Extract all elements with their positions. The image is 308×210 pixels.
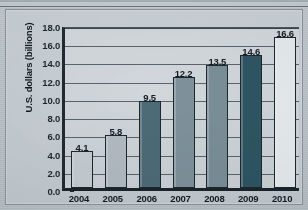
y-axis-tick-label: 4.0 (47, 149, 60, 160)
bar (240, 55, 262, 188)
bar (173, 77, 195, 188)
bar (206, 65, 228, 188)
bar (274, 37, 296, 188)
bar-value-label: 9.5 (143, 92, 156, 103)
x-axis-tick-label: 2004 (69, 193, 89, 204)
x-axis-tick-label: 2005 (103, 193, 123, 204)
x-axis-labels: 2004200520062007200820092010 (62, 193, 299, 209)
bar-value-label: 5.8 (109, 126, 122, 137)
bar (105, 135, 127, 188)
y-axis-ticks: 0.02.04.06.08.010.012.014.016.018.0 (16, 27, 60, 191)
y-axis-tick-label: 16.0 (42, 40, 60, 51)
bars: 4.15.89.512.213.514.616.6 (65, 28, 299, 188)
x-axis-tick-label: 2006 (136, 193, 156, 204)
bar (71, 151, 93, 188)
y-axis-tick-label: 6.0 (47, 131, 60, 142)
y-axis-tick-label: 10.0 (42, 94, 60, 105)
bar-value-label: 14.6 (242, 46, 260, 57)
x-axis-tick-label: 2007 (170, 193, 190, 204)
bar-value-label: 4.1 (76, 142, 89, 153)
y-axis-tick-label: 14.0 (42, 58, 60, 69)
bar-value-label: 12.2 (175, 68, 193, 79)
page-top-rule (0, 0, 308, 7)
y-axis-tick-label: 18.0 (42, 22, 60, 33)
y-axis-tick-label: 2.0 (47, 167, 60, 178)
y-axis-tick-label: 0.0 (47, 186, 60, 197)
y-axis-tick-label: 12.0 (42, 76, 60, 87)
plot-area: 4.15.89.512.213.514.616.6 (62, 27, 299, 191)
x-axis-tick-label: 2008 (204, 193, 224, 204)
chart-frame: U.S. dollars (billions) 0.02.04.06.08.01… (5, 9, 303, 205)
chart-screenshot: U.S. dollars (billions) 0.02.04.06.08.01… (0, 0, 308, 210)
bar-value-label: 16.6 (276, 28, 294, 39)
bar-value-label: 13.5 (208, 56, 226, 67)
y-axis-tick-mark (70, 191, 74, 192)
y-axis-tick-label: 8.0 (47, 113, 60, 124)
bar (139, 101, 161, 188)
x-axis-tick-label: 2009 (238, 193, 258, 204)
x-axis-tick-label: 2010 (272, 193, 292, 204)
